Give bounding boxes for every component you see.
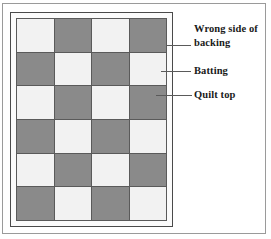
callout-label-wrong-side-of-backing: Wrong side of backing [194,22,268,49]
leader-line-quilt-top [156,95,192,96]
quilt-square [55,86,92,119]
quilt-frame [10,12,173,227]
leader-line-batting [161,71,191,72]
leader-line-backing [166,45,191,46]
quilt-square [92,53,129,86]
quilt-square [92,120,129,153]
quilt-square [17,154,54,187]
quilt-square [130,120,167,153]
quilt-square [17,53,54,86]
callout-label-batting: Batting [194,64,228,78]
quilt-square [92,19,129,52]
quilt-square [55,154,92,187]
quilt-square [92,187,129,220]
quilt-square [17,19,54,52]
diagram-page: Wrong side of backing Batting Quilt top [0,0,271,239]
quilt-square [130,53,167,86]
quilt-square [55,19,92,52]
quilt-square [130,19,167,52]
quilt-square [130,86,167,119]
quilt-square [130,187,167,220]
quilt-square [55,187,92,220]
quilt-square [17,120,54,153]
quilt-checkerboard-grid [16,18,167,221]
quilt-square [17,86,54,119]
quilt-square [55,120,92,153]
callout-label-quilt-top: Quilt top [194,88,235,102]
quilt-square [92,86,129,119]
quilt-square [17,187,54,220]
quilt-square [55,53,92,86]
quilt-square [130,154,167,187]
quilt-square [92,154,129,187]
